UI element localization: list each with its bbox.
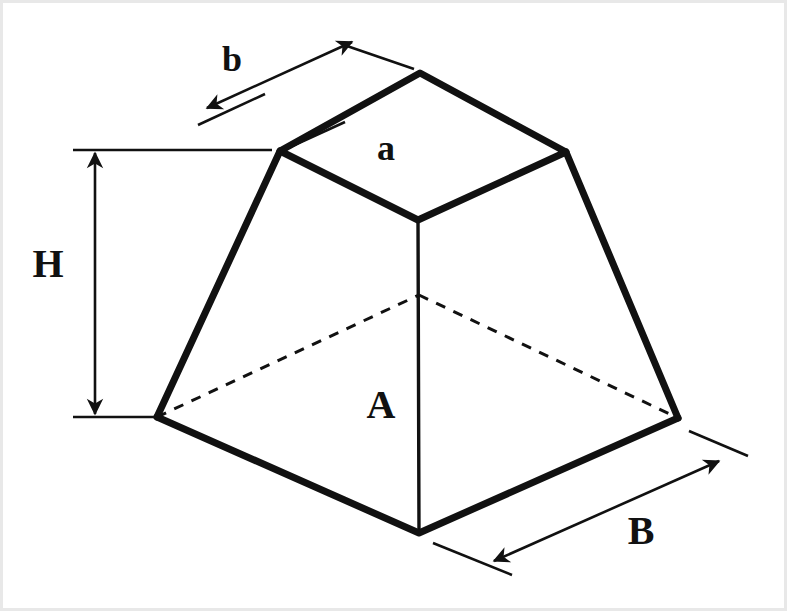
base-face-label: A	[367, 382, 396, 427]
dimension-b-label: b	[222, 39, 242, 79]
dimension-B-label: B	[628, 508, 655, 553]
top-face-label: a	[377, 128, 395, 168]
dimension-B-extension-right	[689, 431, 748, 456]
dimension-b-extension-left	[198, 94, 265, 125]
dimension-b-extension-right	[347, 46, 414, 69]
frustum-figure: b H B a A	[0, 0, 787, 611]
front-vertical-edge	[418, 220, 419, 533]
dimension-H-label: H	[32, 241, 63, 286]
frustum-solid	[157, 73, 678, 533]
diagram-canvas: b H B a A	[0, 0, 787, 611]
